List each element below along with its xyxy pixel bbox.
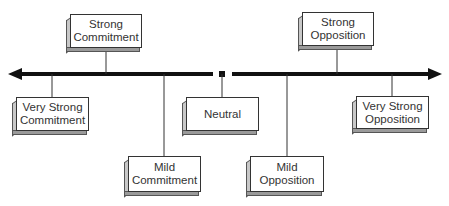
node-very-strong-opposition: Very Strong Opposition bbox=[352, 96, 429, 133]
box-label: Very Strong Opposition bbox=[356, 96, 429, 129]
node-mild-opposition: Mild Opposition bbox=[246, 156, 324, 196]
node-neutral: Neutral bbox=[182, 97, 259, 135]
node-mild-commitment: Mild Commitment bbox=[124, 156, 201, 196]
continuum-axis bbox=[8, 68, 442, 80]
box-label: Strong Commitment bbox=[70, 14, 142, 48]
node-very-strong-commitment: Very Strong Commitment bbox=[12, 97, 89, 135]
arrow-left-icon bbox=[8, 68, 22, 80]
box-label: Very Strong Commitment bbox=[16, 97, 89, 131]
node-strong-opposition: Strong Opposition bbox=[298, 12, 374, 50]
box-label: Mild Commitment bbox=[128, 156, 201, 192]
arrow-right-icon bbox=[428, 68, 442, 80]
node-strong-commitment: Strong Commitment bbox=[66, 14, 142, 52]
box-label: Neutral bbox=[186, 97, 259, 131]
box-label: Strong Opposition bbox=[302, 12, 374, 46]
box-label: Mild Opposition bbox=[250, 156, 324, 192]
